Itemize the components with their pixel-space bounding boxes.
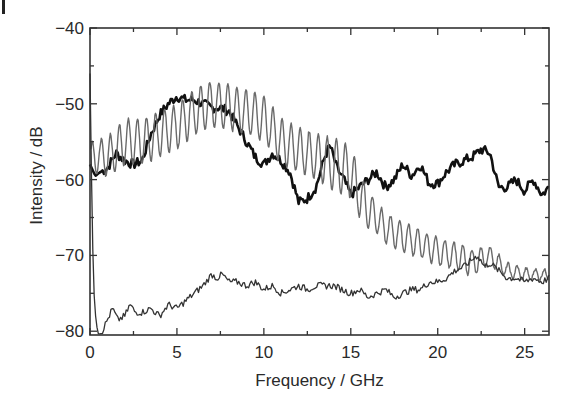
axis-ticks [90, 28, 549, 335]
y-axis-label: Intensity / dB [27, 126, 46, 224]
x-tick-label: 10 [254, 343, 273, 362]
x-tick-label: 20 [428, 343, 447, 362]
line-chart: 0510152025 −40−50−60−70−80 Frequency / G… [0, 0, 577, 407]
y-tick-labels: −40−50−60−70−80 [55, 19, 84, 341]
y-tick-label: −70 [55, 246, 84, 265]
x-tick-labels: 0510152025 [85, 343, 534, 362]
x-tick-label: 5 [172, 343, 181, 362]
y-tick-label: −40 [55, 19, 84, 38]
x-tick-label: 25 [515, 343, 534, 362]
y-tick-label: −50 [55, 95, 84, 114]
series-thin-lower [90, 74, 549, 334]
plot-series [90, 74, 549, 334]
x-tick-label: 0 [85, 343, 94, 362]
x-tick-label: 15 [341, 343, 360, 362]
x-axis-label: Frequency / GHz [255, 371, 384, 390]
y-tick-label: −60 [55, 171, 84, 190]
plot-frame [90, 28, 549, 335]
y-tick-label: −80 [55, 322, 84, 341]
